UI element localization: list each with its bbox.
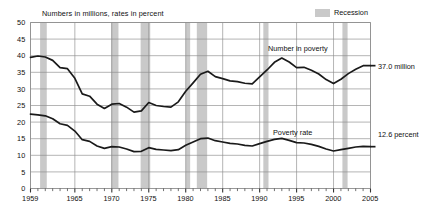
poverty-chart-figure: Numbers in millions, rates in percent Re…	[0, 0, 434, 220]
y-tick-label: 30	[17, 85, 25, 94]
x-tick-label: 1970	[103, 194, 119, 203]
y-tick-label: 20	[17, 118, 25, 127]
y-tick-label: 25	[17, 101, 25, 110]
x-tick-label: 1965	[66, 194, 82, 203]
y-tick-label: 5	[21, 168, 25, 177]
recession-legend-label: Recession	[334, 8, 368, 17]
end-label-poverty-rate: 12.6 percent	[378, 130, 419, 139]
end-label-number-in-poverty: 37.0 million	[378, 62, 415, 71]
x-tick-label: 2005	[362, 194, 378, 203]
x-tick-label: 1990	[251, 194, 267, 203]
x-tick-label: 1980	[177, 194, 193, 203]
recession-legend-swatch	[315, 9, 330, 17]
axis-note: Numbers in millions, rates in percent	[42, 9, 164, 18]
x-tick-label: 1959	[22, 194, 38, 203]
y-tick-label: 10	[17, 151, 25, 160]
y-tick-label: 15	[17, 134, 25, 143]
x-tick-label: 1995	[288, 194, 304, 203]
x-tick-label: 1985	[214, 194, 230, 203]
plot-area	[0, 0, 434, 220]
x-tick-label: 2000	[325, 194, 341, 203]
y-tick-label: 50	[17, 18, 25, 27]
y-tick-label: 0	[21, 184, 25, 193]
y-tick-label: 40	[17, 51, 25, 60]
series-label-poverty-rate: Poverty rate	[273, 128, 312, 137]
legend: Recession	[315, 8, 368, 17]
y-tick-label: 45	[17, 35, 25, 44]
y-tick-label: 35	[17, 68, 25, 77]
series-label-number-in-poverty: Number in poverty	[268, 44, 328, 53]
x-tick-label: 1975	[140, 194, 156, 203]
